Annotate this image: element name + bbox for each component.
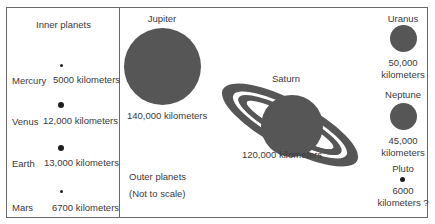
mars-label: Mars (12, 203, 33, 213)
pluto-label: Pluto (378, 164, 428, 174)
jupiter-label: Jupiter (142, 14, 182, 24)
venus-dot (58, 102, 64, 108)
venus-label: Venus (12, 117, 38, 127)
outer-planets-title: Outer planets (129, 172, 186, 182)
not-to-scale-note: (Not to scale) (129, 189, 186, 199)
neptune-planet (390, 103, 417, 130)
neptune-diameter-unit: kilometers (370, 148, 435, 158)
inner-planets-title: Inner planets (36, 20, 91, 30)
mercury-diameter: 5000 kilometers (53, 75, 120, 85)
mercury-dot (60, 64, 63, 67)
venus-diameter: 12,000 kilometers (43, 116, 118, 126)
jupiter-planet (124, 28, 201, 105)
mars-dot (60, 190, 63, 193)
pluto-dot (400, 177, 405, 182)
uranus-label: Uranus (378, 14, 428, 24)
panel-divider (119, 7, 120, 218)
pluto-diameter-unit: kilometers ? (368, 198, 435, 208)
jupiter-diameter: 140,000 kilometers (127, 111, 207, 121)
uranus-diameter-value: 50,000 (378, 58, 428, 68)
earth-diameter: 13,000 kilometers (44, 158, 119, 168)
earth-dot (58, 145, 64, 151)
earth-label: Earth (12, 159, 35, 169)
mars-diameter: 6700 kilometers (52, 203, 119, 213)
neptune-label: Neptune (374, 90, 432, 100)
saturn-diameter: 120,000 kilometers (242, 150, 322, 160)
mercury-label: Mercury (12, 76, 46, 86)
uranus-diameter-unit: kilometers (370, 70, 435, 80)
uranus-planet (390, 25, 417, 52)
neptune-diameter-value: 45,000 (378, 136, 428, 146)
pluto-diameter-value: 6000 (378, 186, 428, 196)
